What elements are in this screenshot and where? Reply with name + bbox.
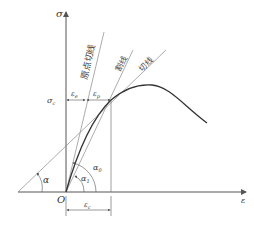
alpha0-label: α0 bbox=[93, 163, 102, 173]
tangent-label: 切线 bbox=[136, 55, 154, 73]
origin-label: O bbox=[57, 194, 65, 205]
alpha-label: α bbox=[43, 175, 49, 185]
eps-p-label: εp bbox=[93, 90, 101, 100]
sigma-c-label: σc bbox=[47, 96, 55, 106]
initial-tangent-label: 原点切线 bbox=[78, 43, 97, 81]
stress-strain-diagram: σ ε O σc εe εp εc α α1 α0 原点切线 割线 切线 bbox=[0, 0, 254, 225]
eps-e-label: εe bbox=[71, 90, 78, 99]
stress-strain-curve bbox=[66, 85, 207, 192]
alpha1-label: α1 bbox=[81, 174, 90, 184]
sigma-axis-label: σ bbox=[56, 8, 64, 19]
alpha-arc bbox=[37, 173, 42, 192]
epsilon-axis-label: ε bbox=[241, 196, 245, 205]
eps-c-label: εc bbox=[84, 201, 91, 210]
